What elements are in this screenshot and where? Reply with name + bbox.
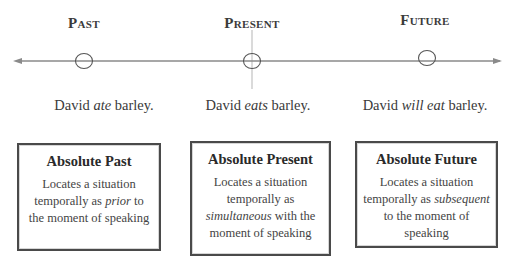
box-description: Locates a situation temporally as simult… [192, 174, 329, 242]
absolute-present-box: Absolute Present Locates a situation tem… [190, 141, 331, 256]
example-sentence-past: David ate barley. [19, 97, 189, 114]
example-sentence-future: David will eat barley. [340, 97, 510, 114]
sentence-text: barley. [445, 97, 488, 113]
sentence-text: David [54, 97, 93, 113]
sentence-verb: eats [245, 97, 268, 113]
box-description: Locates a situation temporally as subseq… [357, 174, 496, 242]
sentence-text: David [363, 97, 402, 113]
label-future: Future [365, 12, 485, 29]
box-emphasis: simultaneous [206, 209, 272, 223]
absolute-past-box: Absolute Past Locates a situation tempor… [17, 143, 161, 251]
example-sentence-present: David eats barley. [173, 97, 343, 114]
label-present: Present [192, 15, 312, 32]
box-text: with the [272, 209, 316, 223]
box-line: simultaneous with the [196, 208, 325, 225]
sentence-verb: will eat [402, 97, 445, 113]
box-title: Absolute Present [192, 151, 329, 168]
box-text: temporally as [363, 192, 434, 206]
box-description: Locates a situation temporally as prior … [19, 176, 159, 227]
future-marker-circle [419, 51, 436, 66]
label-past: Past [24, 15, 144, 32]
box-line: Locates a situation [361, 174, 492, 191]
box-emphasis: prior [105, 194, 131, 208]
box-title: Absolute Past [19, 153, 159, 170]
box-title: Absolute Future [357, 151, 496, 168]
box-line: moment of speaking [196, 225, 325, 242]
box-line: speaking [361, 225, 492, 242]
sentence-text: barley. [268, 97, 311, 113]
sentence-text: David [206, 97, 245, 113]
absolute-future-box: Absolute Future Locates a situation temp… [355, 141, 498, 248]
box-line: temporally as [196, 191, 325, 208]
sentence-verb: ate [93, 97, 111, 113]
arrow-right-icon [493, 58, 502, 64]
arrow-left-icon [13, 58, 22, 64]
sentence-text: barley. [111, 97, 154, 113]
box-line: temporally as subsequent [361, 191, 492, 208]
box-line: the moment of speaking [23, 210, 155, 227]
box-emphasis: subsequent [434, 192, 490, 206]
box-line: temporally as prior to [23, 193, 155, 210]
box-line: Locates a situation [23, 176, 155, 193]
box-text: to [131, 194, 144, 208]
box-line: to the moment of [361, 208, 492, 225]
box-text: temporally as [34, 194, 105, 208]
box-line: Locates a situation [196, 174, 325, 191]
